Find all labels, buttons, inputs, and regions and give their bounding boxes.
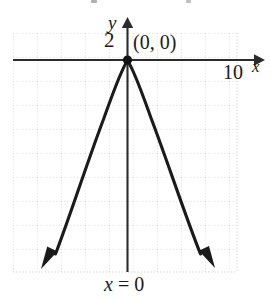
grid-lines xyxy=(13,33,237,272)
axis-of-symmetry-equals-zero: = 0 xyxy=(113,273,144,295)
vertex-coordinate-label: (0, 0) xyxy=(133,32,176,52)
parabola-graph-figure: y 2 (0, 0) 10 x x = 0 xyxy=(0,0,271,298)
axis-of-symmetry-variable: x xyxy=(104,273,113,295)
x-axis-tick-label-10: 10 xyxy=(223,62,243,82)
y-axis-tick-label-2: 2 xyxy=(104,30,115,51)
x-axis-label: x xyxy=(252,58,260,75)
top-crop-artifact-left xyxy=(91,0,97,3)
top-crop-artifact-right xyxy=(186,0,191,3)
vertex-point-marker xyxy=(123,55,132,64)
axis-of-symmetry-label: x = 0 xyxy=(104,274,144,294)
